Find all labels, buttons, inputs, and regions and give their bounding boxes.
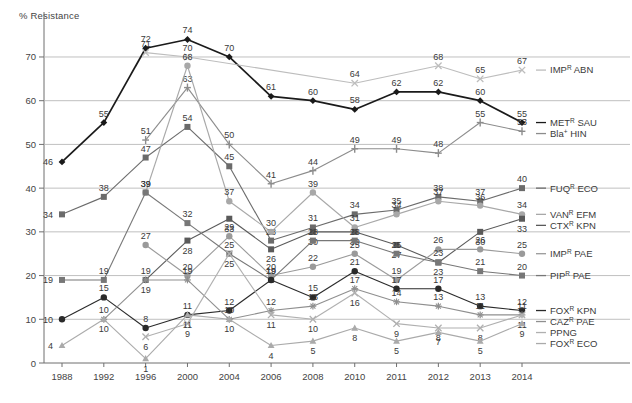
series-5: 39683730393134373634 bbox=[141, 52, 527, 235]
data-label: 7 bbox=[436, 337, 441, 347]
series-line bbox=[313, 149, 355, 171]
data-label: 13 bbox=[433, 292, 443, 302]
x-tick-label: 2013 bbox=[470, 371, 491, 382]
series-line bbox=[146, 193, 188, 224]
data-label: 5 bbox=[478, 346, 483, 356]
y-tick-label: 20 bbox=[25, 270, 36, 281]
legend-item-3[interactable]: Bla+ HIN bbox=[536, 127, 587, 139]
series-line bbox=[271, 341, 313, 345]
series-line bbox=[104, 158, 146, 197]
data-label: 71 bbox=[141, 39, 151, 49]
series-6: 19283326303027233033 bbox=[141, 216, 527, 295]
series-line bbox=[313, 214, 355, 227]
legend-label: IMPR ABN bbox=[550, 64, 593, 76]
data-label: 61 bbox=[266, 82, 276, 92]
series-line bbox=[438, 289, 480, 306]
data-label: 9 bbox=[394, 329, 399, 339]
series-line bbox=[438, 66, 480, 79]
legend-item-10[interactable]: CAZR PAE bbox=[536, 315, 595, 327]
series-line bbox=[480, 206, 522, 215]
x-tick-label: 1988 bbox=[51, 371, 72, 382]
legend-label: PPNG bbox=[550, 327, 577, 338]
data-label: 10 bbox=[43, 315, 53, 325]
data-label: 13 bbox=[308, 292, 318, 302]
line-chart-svg: 0102030405060701988199219962000200420062… bbox=[0, 0, 632, 403]
legend-item-2[interactable]: IMPR ABN bbox=[536, 64, 593, 76]
series-line bbox=[397, 254, 439, 263]
y-tick-label: 70 bbox=[25, 51, 36, 62]
series-line bbox=[397, 332, 439, 341]
data-label: 20 bbox=[517, 262, 527, 272]
data-label: 25 bbox=[224, 240, 234, 250]
series-line bbox=[438, 123, 480, 154]
data-label: 10 bbox=[308, 324, 318, 334]
y-tick-label: 40 bbox=[25, 183, 36, 194]
series-line bbox=[271, 315, 313, 319]
series-line bbox=[313, 254, 355, 267]
data-label: 47 bbox=[141, 144, 151, 154]
legend-label: IMPR PAE bbox=[550, 248, 593, 260]
data-label: 19 bbox=[266, 266, 276, 276]
data-label: 31 bbox=[350, 213, 360, 223]
legend-item-12[interactable]: FOXR ECO bbox=[536, 337, 597, 349]
series-line bbox=[229, 311, 271, 320]
legend-item-11[interactable]: PPNG bbox=[536, 327, 577, 338]
legend-item-9[interactable]: FOXR KPN bbox=[536, 304, 597, 316]
data-label: 25 bbox=[517, 240, 527, 250]
series-line bbox=[355, 214, 397, 227]
data-label: 11 bbox=[183, 301, 192, 311]
legend-label: PIPR PAE bbox=[550, 269, 591, 281]
series-1: 465572747061605862626055 bbox=[43, 25, 527, 167]
legend-item-6[interactable]: CTXR KPN bbox=[536, 219, 596, 231]
data-label: 8 bbox=[143, 314, 148, 324]
x-tick-label: 2011 bbox=[386, 371, 406, 382]
y-tick-label: 30 bbox=[25, 226, 36, 237]
series-line bbox=[480, 249, 522, 253]
series-line bbox=[313, 101, 355, 110]
series-line bbox=[229, 319, 271, 345]
series-12: 410111104585759 bbox=[48, 311, 525, 373]
data-label: 9 bbox=[519, 329, 524, 339]
data-label: 40 bbox=[517, 174, 527, 184]
data-label: 10 bbox=[99, 305, 109, 315]
data-label: 19 bbox=[182, 266, 192, 276]
data-label: 49 bbox=[392, 135, 402, 145]
data-label: 33 bbox=[517, 224, 527, 234]
data-label: 32 bbox=[182, 209, 192, 219]
data-label: 31 bbox=[308, 213, 318, 223]
series-line bbox=[62, 297, 104, 319]
data-label: 22 bbox=[308, 253, 318, 263]
data-label: 34 bbox=[392, 200, 402, 210]
legend-item-1[interactable]: METR SAU bbox=[536, 116, 597, 128]
data-label: 26 bbox=[475, 235, 485, 245]
data-label: 58 bbox=[350, 95, 360, 105]
legend-item-7[interactable]: IMPR PAE bbox=[536, 248, 593, 260]
series-line bbox=[187, 219, 229, 241]
series-line bbox=[397, 302, 439, 306]
data-label: 30 bbox=[266, 218, 276, 228]
legend-item-5[interactable]: VANR EFM bbox=[536, 208, 596, 220]
series-line bbox=[438, 197, 480, 201]
legend-label: CAZR PAE bbox=[550, 315, 595, 327]
data-label: 17 bbox=[350, 275, 360, 285]
data-label: 10 bbox=[224, 305, 234, 315]
series-3: 51635041444949485553 bbox=[141, 74, 527, 188]
series-line bbox=[271, 96, 313, 100]
legend-item-4[interactable]: FUQR ECO bbox=[536, 182, 598, 194]
series-9: 10158111219152117171312 bbox=[43, 257, 527, 331]
data-label: 74 bbox=[182, 25, 192, 35]
series-line bbox=[271, 193, 313, 232]
series-line bbox=[104, 319, 146, 358]
data-label: 37 bbox=[224, 187, 234, 197]
data-label: 5 bbox=[394, 346, 399, 356]
data-label: 27 bbox=[141, 231, 151, 241]
x-tick-label: 2004 bbox=[219, 371, 240, 382]
series-line bbox=[104, 193, 146, 280]
data-label: 11 bbox=[517, 301, 526, 311]
data-label: 36 bbox=[475, 192, 485, 202]
legend-item-8[interactable]: PIPR PAE bbox=[536, 269, 591, 281]
data-label: 26 bbox=[433, 235, 443, 245]
data-label: 34 bbox=[43, 210, 53, 220]
series-line bbox=[187, 236, 229, 275]
series-line bbox=[146, 245, 188, 276]
